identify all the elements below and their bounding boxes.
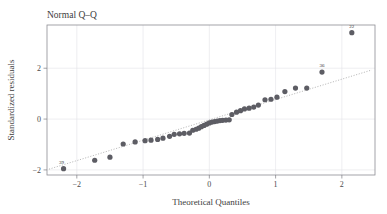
y-tick-label: 2 xyxy=(37,64,41,73)
data-point xyxy=(319,69,324,74)
data-point xyxy=(167,134,172,139)
qq-plot-canvas: Normal Q–Q −2−1012 −202 393622 Theoretic… xyxy=(0,0,387,214)
data-point xyxy=(148,138,153,143)
data-point xyxy=(229,112,234,117)
x-tick-label: 2 xyxy=(340,180,344,189)
x-axis-label: Theoretical Quantiles xyxy=(172,197,250,207)
data-point xyxy=(242,106,247,111)
data-point xyxy=(227,117,232,122)
x-tick-label: 1 xyxy=(274,180,278,189)
x-tick-label: −2 xyxy=(73,180,82,189)
data-point xyxy=(282,89,287,94)
y-axis-label: Standardized residuals xyxy=(6,59,16,141)
y-tick-label: −2 xyxy=(32,166,41,175)
page-title: Normal Q–Q xyxy=(47,10,97,20)
data-point xyxy=(349,30,354,35)
data-point xyxy=(160,136,165,141)
data-point xyxy=(133,139,138,144)
data-point xyxy=(172,132,177,137)
x-tick-label: −1 xyxy=(139,180,148,189)
plot-background xyxy=(0,0,387,214)
data-point xyxy=(182,131,187,136)
point-outlier-label: 39 xyxy=(59,160,65,165)
data-point xyxy=(274,95,279,100)
point-outlier-label: 22 xyxy=(349,24,355,29)
data-point xyxy=(293,85,298,90)
data-point xyxy=(256,102,261,107)
normal-qq-plot: Normal Q–Q −2−1012 −202 393622 Theoretic… xyxy=(0,0,387,214)
data-point xyxy=(177,131,182,136)
data-point xyxy=(61,166,66,171)
x-tick-label: 0 xyxy=(207,180,211,189)
data-point xyxy=(92,158,97,163)
point-outlier-label: 36 xyxy=(319,63,325,68)
data-point xyxy=(107,155,112,160)
data-point xyxy=(262,97,267,102)
y-tick-label: 0 xyxy=(37,115,41,124)
data-point xyxy=(251,105,256,110)
data-point xyxy=(268,97,273,102)
data-point xyxy=(247,106,252,111)
data-point xyxy=(121,141,126,146)
data-point xyxy=(304,85,309,90)
data-point xyxy=(155,137,160,142)
data-point xyxy=(142,138,147,143)
